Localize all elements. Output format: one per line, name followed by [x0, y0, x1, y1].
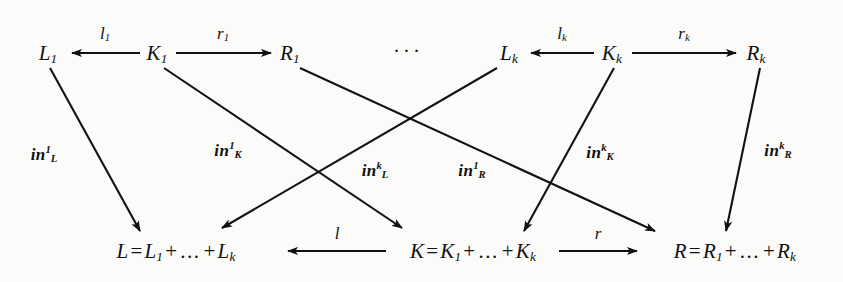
node-L-coproduct: L=L1+...+Lk [117, 241, 236, 262]
arrow-label-r-bottom: r [595, 225, 602, 242]
injection-label-in-R-1: in1R [458, 162, 485, 179]
arrow-label-lk: lk [557, 25, 567, 42]
injection-label-in-L-1: in1L [31, 146, 58, 163]
node-K-coproduct: K=K1+...+Kk [410, 241, 536, 262]
node-K1: K1 [146, 43, 167, 64]
ellipsis-top-row: ··· [393, 41, 423, 62]
diagram-canvas: L1 K1 R1 ··· Lk Kk Rk l1 r1 lk rk in1L i… [0, 0, 843, 282]
node-R1: R1 [280, 43, 300, 64]
arrow-in-K-1 [164, 68, 402, 228]
injection-label-in-K-k: inkK [586, 144, 613, 161]
arrow-label-r1: r1 [217, 25, 229, 42]
node-L1: L1 [39, 43, 58, 64]
node-Rk: Rk [746, 43, 765, 64]
arrow-in-L-1 [50, 68, 140, 231]
arrow-in-R-k [726, 68, 760, 231]
injection-label-in-R-k: inkR [764, 142, 791, 159]
arrow-label-l1: l1 [100, 25, 110, 42]
node-R-coproduct: R=R1+...+Rk [674, 241, 796, 262]
node-Kk: Kk [602, 43, 622, 64]
node-Lk: Lk [500, 43, 518, 64]
injection-label-in-K-1: in1K [214, 142, 241, 159]
arrow-label-l-bottom: l [335, 225, 340, 242]
injection-label-in-L-k: inkL [362, 162, 389, 179]
arrow-label-rk: rk [678, 25, 689, 42]
arrow-in-L-k [222, 68, 497, 228]
